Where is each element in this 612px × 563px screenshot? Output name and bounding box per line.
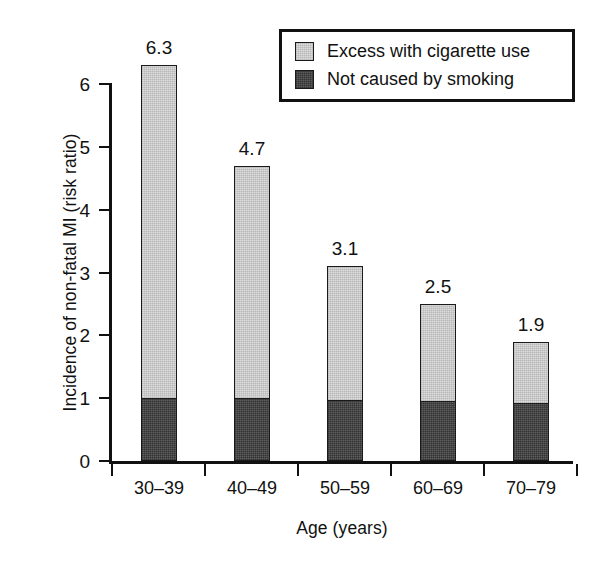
bar-segment-not-caused [141, 398, 177, 461]
x-axis-tick [576, 464, 578, 476]
x-axis-tick-label: 40–49 [227, 478, 277, 499]
y-axis-tick-label: 4 [50, 200, 90, 219]
bar-value-label: 4.7 [239, 138, 265, 160]
legend-swatch-excess-icon [295, 42, 314, 61]
bar [327, 266, 363, 461]
x-axis-tick [204, 464, 206, 476]
bar-value-label: 1.9 [518, 314, 544, 336]
x-axis-tick [483, 464, 485, 476]
y-axis-tick [99, 334, 110, 336]
x-axis-tick-label: 30–39 [134, 478, 184, 499]
y-axis-tick [99, 83, 110, 85]
bar-segment-excess [234, 166, 270, 399]
bar-value-label: 2.5 [425, 276, 451, 298]
y-axis-tick-label: 0 [50, 452, 90, 471]
bar-segment-not-caused [513, 403, 549, 461]
bar [141, 65, 177, 461]
bar-segment-excess [513, 342, 549, 404]
x-axis-tick-label: 60–69 [413, 478, 463, 499]
bar-segment-not-caused [327, 400, 363, 461]
bar-value-label: 3.1 [332, 238, 358, 260]
bar-segment-excess [141, 65, 177, 399]
x-axis-tick-label: 70–79 [506, 478, 556, 499]
x-axis-line [109, 461, 573, 464]
legend-label-excess: Excess with cigarette use [327, 42, 530, 60]
bar-segment-excess [327, 266, 363, 401]
x-axis-tick-label: 50–59 [320, 478, 370, 499]
legend-item-excess: Excess with cigarette use [295, 39, 530, 63]
bar-chart: Incidence of non-fatal MI (risk ratio) 0… [0, 0, 612, 563]
legend-item-not-caused: Not caused by smoking [295, 67, 514, 91]
x-axis-tick [297, 464, 299, 476]
y-axis-tick [99, 397, 110, 399]
y-axis-line [109, 83, 112, 464]
bar-segment-excess [420, 304, 456, 402]
legend-swatch-not-caused-icon [295, 70, 314, 89]
x-axis-title: Age (years) [111, 518, 573, 539]
y-axis-tick-label: 6 [50, 75, 90, 94]
y-axis-tick [99, 460, 110, 462]
bar-segment-not-caused [234, 398, 270, 461]
bar [234, 166, 270, 461]
bar-value-label: 6.3 [146, 37, 172, 59]
bar [420, 304, 456, 461]
y-axis-tick-label: 1 [50, 389, 90, 408]
y-axis-tick [99, 272, 110, 274]
y-axis-tick-label: 3 [50, 263, 90, 282]
legend: Excess with cigarette use Not caused by … [279, 29, 575, 102]
bar [513, 342, 549, 461]
y-axis-tick-label: 5 [50, 137, 90, 156]
y-axis-tick-label: 2 [50, 326, 90, 345]
legend-label-not-caused: Not caused by smoking [327, 70, 514, 88]
x-axis-tick [111, 464, 113, 476]
bar-segment-not-caused [420, 401, 456, 461]
x-axis-tick [390, 464, 392, 476]
y-axis-tick [99, 146, 110, 148]
y-axis-tick [99, 209, 110, 211]
